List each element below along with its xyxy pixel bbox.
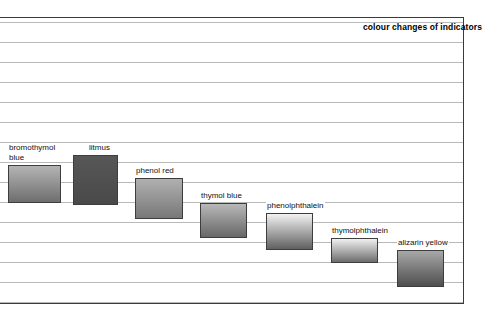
indicator-label-thymol-blue: thymol blue bbox=[200, 191, 243, 201]
gridline-2 bbox=[0, 62, 464, 63]
frame-top-border bbox=[0, 17, 464, 18]
gridline-1 bbox=[0, 42, 464, 43]
indicator-label-phenol-red: phenol red bbox=[135, 166, 175, 176]
indicator-label-thymolphthalein: thymolphthalein bbox=[331, 226, 389, 236]
gridline-11 bbox=[0, 242, 464, 243]
indicator-band-thymolphthalein[interactable] bbox=[331, 238, 378, 263]
indicator-band-phenolphthalein[interactable] bbox=[266, 213, 313, 250]
frame-right-border bbox=[463, 17, 464, 304]
gridline-4 bbox=[0, 102, 464, 103]
indicator-label-alizarin-yellow: alizarin yellow bbox=[397, 238, 449, 248]
indicator-band-thymol-blue[interactable] bbox=[200, 203, 247, 238]
gridline-7 bbox=[0, 162, 464, 163]
gridline-6 bbox=[0, 142, 464, 143]
frame-bottom-border bbox=[0, 303, 464, 304]
indicator-band-litmus[interactable] bbox=[73, 155, 118, 205]
gridline-3 bbox=[0, 82, 464, 83]
chart-title: colour changes of indicators bbox=[363, 22, 482, 32]
indicator-label-litmus: litmus bbox=[88, 143, 111, 153]
indicator-label-bromothymol-blue: bromothymol blue bbox=[8, 143, 56, 162]
gridline-13 bbox=[0, 282, 464, 283]
gridline-8 bbox=[0, 182, 464, 183]
indicator-band-phenol-red[interactable] bbox=[135, 178, 183, 219]
indicator-band-alizarin-yellow[interactable] bbox=[397, 250, 444, 287]
gridline-5 bbox=[0, 122, 464, 123]
indicator-band-bromothymol-blue[interactable] bbox=[8, 165, 61, 203]
indicator-label-phenolphthalein: phenolphthalein bbox=[266, 201, 325, 211]
gridline-12 bbox=[0, 262, 464, 263]
chart-canvas: colour changes of indicators bromothymol… bbox=[0, 0, 490, 319]
